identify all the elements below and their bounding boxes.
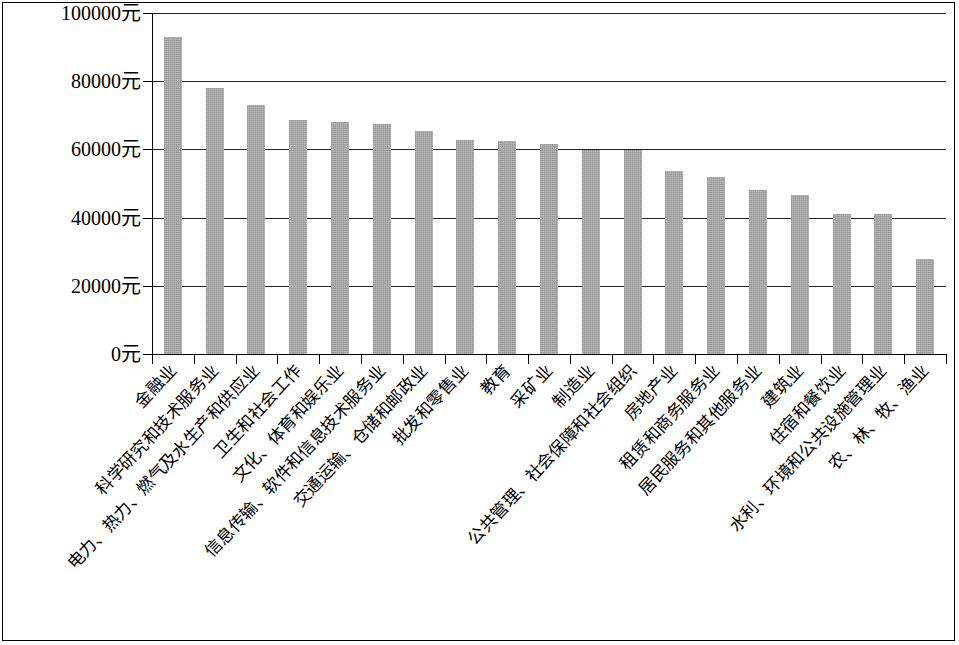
bar [624,150,642,354]
bar [874,214,892,354]
bar [164,37,182,354]
x-label-text: 采矿业 [507,361,556,412]
bar [916,259,934,354]
bar [206,88,224,354]
bar-chart: 0元20000元40000元60000元80000元100000元 金融业科学研… [0,0,959,645]
bar [289,120,307,354]
x-label-text: 教育 [477,361,515,400]
x-category-label: 采矿业 [508,362,555,411]
bar [582,150,600,354]
x-axis-line [152,354,947,355]
bar [707,177,725,354]
y-tick-label: 60000元 [0,139,141,159]
y-tick-label: 100000元 [0,3,141,23]
x-axis-category-labels: 金融业科学研究和技术服务业电力、热力、燃气及水生产和供应业卫生和社会工作文化、体… [0,358,959,643]
bar [373,124,391,354]
bar [456,140,474,354]
bar-series [152,13,946,354]
bar [498,141,516,354]
bar [331,122,349,354]
y-tick-label: 20000元 [0,276,141,296]
bar [247,105,265,354]
bar [833,214,851,354]
y-tick-label: 40000元 [0,208,141,228]
bar [415,131,433,354]
bar [791,195,809,354]
x-category-label: 教育 [478,362,514,398]
y-tick-label: 80000元 [0,71,141,91]
bar [540,144,558,354]
bar [665,171,683,354]
bar [749,190,767,354]
